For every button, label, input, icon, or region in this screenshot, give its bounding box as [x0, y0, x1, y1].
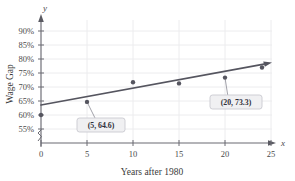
x-tick-label: 0 [39, 149, 43, 159]
y-tick-label: 75% [18, 68, 34, 78]
y-axis-arrowhead [38, 14, 44, 22]
grid-lines [41, 20, 272, 143]
callout-point-5: (5, 64.6) [77, 118, 125, 132]
x-axis-arrowhead [268, 140, 276, 146]
y-tick-labels: 90% 85% 80% 75% 70% 65% 60% 55% [18, 26, 34, 134]
y-tick-label: 65% [18, 96, 34, 106]
chart-figure: 90% 85% 80% 75% 70% 65% 60% 55% 0 5 10 1… [0, 0, 295, 181]
callout-point-20: (20, 73.3) [210, 95, 262, 109]
y-axis-title: Wage Gap [5, 64, 15, 104]
x-tick-labels: 0 5 10 15 20 25 [39, 149, 275, 159]
data-point [260, 65, 264, 69]
y-tick-label: 85% [18, 40, 34, 50]
y-tick-label: 90% [18, 26, 34, 36]
y-tick-label: 70% [18, 82, 34, 92]
callout-label: (20, 73.3) [221, 98, 252, 107]
wage-gap-scatter-chart: 90% 85% 80% 75% 70% 65% 60% 55% 0 5 10 1… [0, 0, 295, 181]
x-tick-label: 10 [129, 149, 138, 159]
x-tick-label: 20 [221, 149, 230, 159]
data-point [39, 113, 43, 117]
data-point [85, 100, 89, 104]
x-axis-title: Years after 1980 [121, 167, 184, 177]
data-point [177, 81, 181, 85]
x-tick-label: 25 [267, 149, 276, 159]
x-tick-label: 5 [85, 149, 89, 159]
x-axis-letter: x [280, 138, 285, 148]
data-point [131, 80, 135, 84]
y-tick-label: 80% [18, 54, 34, 64]
x-tick-label: 15 [175, 149, 184, 159]
y-tick-label: 60% [18, 110, 34, 120]
data-point [223, 75, 227, 79]
y-axis-letter: y [42, 3, 47, 13]
callout-label: (5, 64.6) [88, 121, 115, 130]
y-tick-label: 55% [18, 124, 34, 134]
axis-lines [38, 14, 276, 147]
